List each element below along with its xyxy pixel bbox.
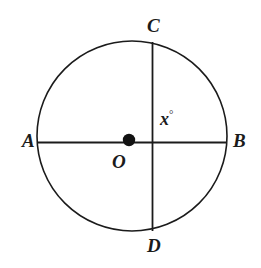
vertex-label-b: B (233, 131, 246, 150)
angle-variable-text: x (160, 109, 169, 129)
degree-symbol: ° (169, 108, 173, 120)
circle-diagram-svg (0, 0, 261, 268)
center-point-dot (123, 134, 135, 146)
geometry-figure: A B C D O x° (0, 0, 261, 268)
vertex-label-c: C (147, 16, 160, 35)
center-label-o: O (112, 152, 126, 171)
vertex-label-d: D (147, 236, 161, 255)
vertex-label-a: A (22, 131, 35, 150)
angle-label-x-degrees: x° (160, 109, 173, 128)
